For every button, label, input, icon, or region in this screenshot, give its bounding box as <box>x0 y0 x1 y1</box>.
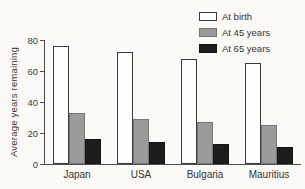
x-category-label-usa: USA <box>109 169 173 180</box>
legend-label: At birth <box>222 11 252 22</box>
bar-japan-at-65-years <box>85 139 101 164</box>
bar-bulgaria-at-birth <box>181 59 197 164</box>
legend-label: At 45 years <box>222 27 270 38</box>
legend-item-at-birth: At birth <box>199 11 270 22</box>
bar-japan-at-birth <box>53 46 69 164</box>
bar-mauritius-at-45-years <box>261 125 277 164</box>
legend-swatch-at-45-years <box>199 28 217 37</box>
bar-mauritius-at-birth <box>245 63 261 164</box>
y-tick-label-40: 40 <box>17 97 38 108</box>
bar-bulgaria-at-45-years <box>197 122 213 164</box>
bar-japan-at-45-years <box>69 113 85 164</box>
y-tick-20 <box>40 133 44 134</box>
y-tick-60 <box>40 71 44 72</box>
y-tick-label-20: 20 <box>17 128 38 139</box>
bar-mauritius-at-65-years <box>277 147 293 164</box>
y-tick-label-80: 80 <box>17 35 38 46</box>
life-expectancy-bar-chart: Average years remaining At birth At 45 y… <box>0 0 305 189</box>
legend-swatch-at-birth <box>199 12 217 21</box>
bar-usa-at-65-years <box>149 142 165 164</box>
bar-bulgaria-at-65-years <box>213 144 229 164</box>
bar-usa-at-45-years <box>133 119 149 164</box>
x-category-label-bulgaria: Bulgaria <box>173 169 237 180</box>
x-category-label-mauritius: Mauritius <box>237 169 301 180</box>
y-tick-80 <box>40 40 44 41</box>
y-tick-40 <box>40 102 44 103</box>
bar-usa-at-birth <box>117 52 133 164</box>
y-tick-label-0: 0 <box>17 159 38 170</box>
legend-item-at-45-years: At 45 years <box>199 27 270 38</box>
y-tick-0 <box>40 164 44 165</box>
x-category-label-japan: Japan <box>45 169 109 180</box>
plot-area: 020406080JapanUSABulgariaMauritius <box>44 40 301 165</box>
y-tick-label-60: 60 <box>17 66 38 77</box>
